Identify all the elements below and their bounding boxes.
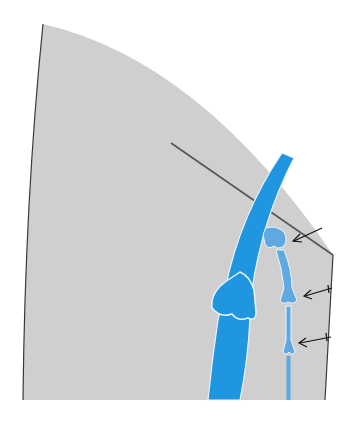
- branch-vessel-stem: [287, 356, 291, 400]
- diagram-canvas: [0, 0, 357, 422]
- branch-vessel-upper-bulb: [263, 227, 286, 248]
